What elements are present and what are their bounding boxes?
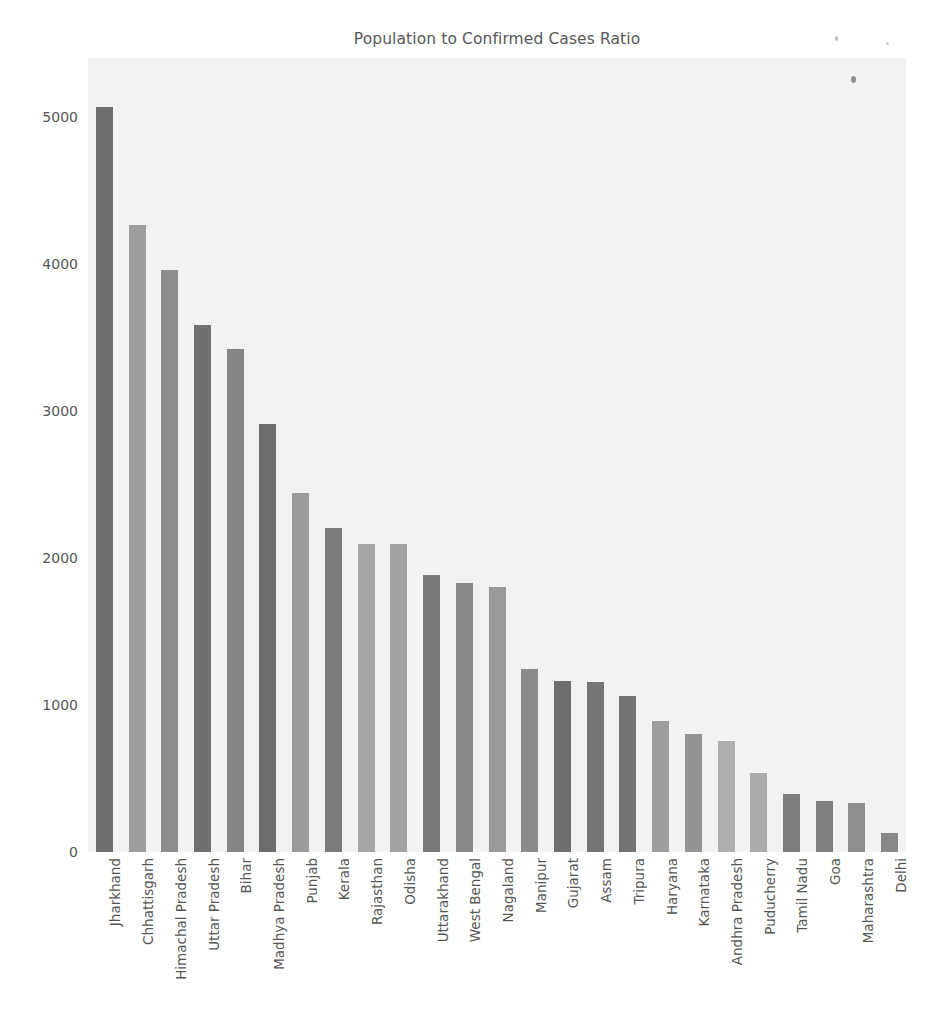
y-axis: 010002000300040005000 — [0, 58, 88, 852]
x-axis-tick-label: Himachal Pradesh — [175, 858, 189, 980]
x-axis-tick-label: Gujarat — [567, 858, 581, 908]
x-axis-tick-label: Chhattisgarh — [142, 858, 156, 945]
x-axis-tick-label: Uttar Pradesh — [208, 858, 222, 951]
bar — [750, 773, 767, 852]
x-axis-tick-label: Delhi — [895, 858, 909, 893]
bar — [423, 575, 440, 852]
bar — [358, 544, 375, 852]
bar — [521, 669, 538, 852]
x-axis-tick-label: Bihar — [240, 858, 254, 893]
x-axis-tick-label: Haryana — [666, 858, 680, 915]
bar — [652, 721, 669, 852]
x-axis-tick-label: Nagaland — [502, 858, 516, 922]
y-axis-tick-label: 1000 — [42, 697, 78, 713]
y-axis-tick-label: 2000 — [42, 550, 78, 566]
bar — [489, 587, 506, 852]
x-axis-tick-label: Rajasthan — [371, 858, 385, 925]
x-axis-tick-label: Madhya Pradesh — [273, 858, 287, 970]
bar — [292, 493, 309, 852]
x-axis-tick-label: Assam — [600, 858, 614, 903]
y-axis-tick-label: 4000 — [42, 256, 78, 272]
scan-artifact-speck — [851, 76, 856, 83]
chart-figure: Population to Confirmed Cases Ratio 0100… — [0, 0, 927, 1035]
bar — [718, 741, 735, 852]
x-axis-tick-label: Puducherry — [764, 858, 778, 935]
scan-artifact-speck — [886, 42, 889, 45]
bar — [816, 801, 833, 852]
bar — [456, 583, 473, 852]
bar — [96, 107, 113, 852]
bar — [848, 803, 865, 852]
x-axis-tick-label: Tamil Nadu — [796, 858, 810, 933]
bar — [227, 349, 244, 852]
plot-area — [88, 58, 906, 852]
bar — [554, 681, 571, 852]
bar — [325, 528, 342, 852]
bar — [587, 682, 604, 852]
x-axis-tick-label: Andhra Pradesh — [731, 858, 745, 965]
y-axis-tick-label: 3000 — [42, 403, 78, 419]
bar — [259, 424, 276, 852]
x-axis-tick-label: Tripura — [633, 858, 647, 905]
x-axis-tick-label: Kerala — [338, 858, 352, 900]
x-axis-tick-label: Goa — [829, 858, 843, 885]
x-axis-tick-label: Maharashtra — [862, 858, 876, 943]
page-title: Population to Confirmed Cases Ratio — [88, 30, 906, 48]
scan-artifact-speck — [835, 36, 838, 41]
x-axis-tick-label: Manipur — [535, 858, 549, 913]
bar — [161, 270, 178, 852]
bar — [194, 325, 211, 852]
x-axis-tick-label: Uttarakhand — [437, 858, 451, 942]
bar — [619, 696, 636, 852]
x-axis-tick-label: Odisha — [404, 858, 418, 905]
bar — [881, 833, 898, 852]
x-axis-tick-label: Karnataka — [698, 858, 712, 926]
y-axis-tick-label: 0 — [69, 844, 78, 860]
y-axis-tick-label: 5000 — [42, 109, 78, 125]
x-axis-tick-label: Punjab — [306, 858, 320, 904]
bar — [685, 734, 702, 852]
x-axis-tick-label: Jharkhand — [109, 858, 123, 926]
bar — [783, 794, 800, 852]
x-axis: JharkhandChhattisgarhHimachal PradeshUtt… — [88, 852, 906, 1002]
bar — [129, 225, 146, 852]
x-axis-tick-label: West Bengal — [469, 858, 483, 942]
bar — [390, 544, 407, 852]
